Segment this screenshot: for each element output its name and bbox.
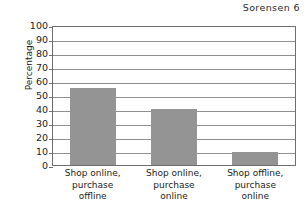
bar-slot: [134, 27, 215, 165]
bar-slot: [53, 27, 134, 165]
y-tick-label: 10: [18, 147, 48, 157]
y-tick-label: 20: [18, 133, 48, 143]
x-axis-label-line: Shop offline,: [215, 168, 296, 180]
y-tick-label: 80: [18, 49, 48, 59]
x-axis-label-line: purchase: [133, 180, 214, 192]
bar-chart-figure: Percentage 1009080706050403020100 Shop o…: [0, 20, 308, 214]
y-tick-label: 100: [18, 21, 48, 31]
x-axis-label-line: purchase: [52, 180, 133, 192]
x-axis-label-line: online: [215, 191, 296, 203]
x-axis-label: Shop online,purchaseoffline: [52, 168, 133, 203]
y-tick-label: 70: [18, 63, 48, 73]
x-axis-label: Shop online,purchaseonline: [133, 168, 214, 203]
y-tick-label: 0: [18, 161, 48, 171]
y-tick-label: 40: [18, 105, 48, 115]
bar: [232, 152, 278, 165]
y-tick-label: 90: [18, 35, 48, 45]
bar-series: [53, 27, 295, 165]
x-axis-label-line: online: [133, 191, 214, 203]
x-axis-label-line: Shop online,: [52, 168, 133, 180]
x-axis-label-line: offline: [52, 191, 133, 203]
y-tick-label: 50: [18, 91, 48, 101]
running-head: Sorensen 6: [243, 2, 300, 13]
bar: [70, 88, 116, 165]
x-axis-label-line: purchase: [215, 180, 296, 192]
x-axis-label-line: Shop online,: [133, 168, 214, 180]
bar-slot: [214, 27, 295, 165]
y-axis-tick-labels: 1009080706050403020100: [18, 26, 48, 166]
x-axis-category-labels: Shop online,purchaseofflineShop online,p…: [52, 168, 296, 203]
plot-area: [52, 26, 296, 166]
x-axis-label: Shop offline,purchaseonline: [215, 168, 296, 203]
bar: [151, 109, 197, 165]
y-tick-label: 30: [18, 119, 48, 129]
y-tick-label: 60: [18, 77, 48, 87]
